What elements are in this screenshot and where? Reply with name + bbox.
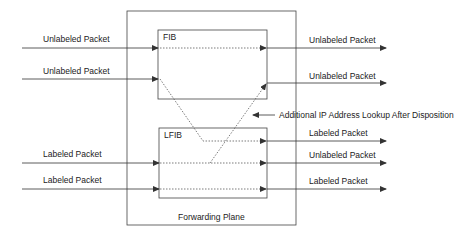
output-label-4: Unlabeled Packet — [309, 150, 376, 160]
output-label-1: Unlabeled Packet — [309, 35, 376, 45]
forwarding-plane-box — [127, 11, 296, 225]
fib-label: FIB — [163, 32, 177, 42]
output-label-3: Labeled Packet — [309, 128, 368, 138]
lfib-label: LFIB — [164, 130, 182, 140]
input-label-1: Unlabeled Packet — [43, 34, 110, 44]
internal-paths — [160, 48, 266, 189]
output-label-5: Labeled Packet — [309, 176, 368, 186]
mpls-forwarding-diagram: FIB LFIB Forwarding Plane Unlabeled Pack… — [0, 0, 469, 238]
input-label-3: Labeled Packet — [43, 149, 102, 159]
input-label-4: Labeled Packet — [43, 175, 102, 185]
output-label-2: Unlabeled Packet — [309, 71, 376, 81]
forwarding-plane-label: Forwarding Plane — [178, 212, 245, 222]
annotation-label: Additional IP Address Lookup After Dispo… — [279, 110, 454, 120]
input-label-2: Unlabeled Packet — [43, 66, 110, 76]
